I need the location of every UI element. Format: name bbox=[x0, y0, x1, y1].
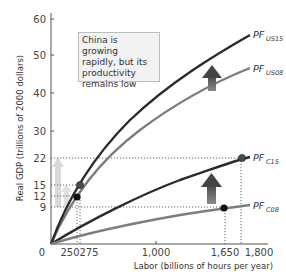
svg-text:PF: PF bbox=[253, 200, 265, 211]
x-tick-1000: 1,000 bbox=[142, 247, 171, 258]
y-tick-40: 40 bbox=[33, 88, 46, 99]
svg-text:US08: US08 bbox=[266, 69, 283, 77]
y-tick-30: 30 bbox=[33, 126, 46, 137]
annotation-line: rapidly, but its bbox=[82, 57, 156, 68]
annotation-box: China is growing rapidly, but its produc… bbox=[78, 32, 160, 82]
annotation-line: productivity bbox=[82, 68, 156, 79]
point-c08 bbox=[220, 204, 227, 211]
china-shift-arrow bbox=[201, 173, 222, 204]
label-pf-c08: PF C08 bbox=[253, 200, 279, 214]
svg-text:C15: C15 bbox=[266, 158, 279, 166]
svg-text:C08: C08 bbox=[266, 206, 279, 214]
pf-c08-curve bbox=[51, 205, 250, 244]
svg-text:PF: PF bbox=[253, 152, 265, 163]
x-tick-250: 250 bbox=[60, 247, 79, 258]
x-tick-1800: 1,800 bbox=[245, 247, 274, 258]
pf-c15-curve bbox=[51, 157, 250, 244]
y-tick-12: 12 bbox=[33, 191, 46, 202]
label-pf-us15: PF US15 bbox=[253, 29, 283, 43]
label-pf-c15: PF C15 bbox=[253, 152, 279, 166]
point-c15 bbox=[238, 154, 245, 161]
x-axis-title: Labor (billions of hours per year) bbox=[134, 261, 273, 271]
x-tick-1650: 1,650 bbox=[211, 247, 240, 258]
y-axis-title: Real GDP (trillions of 2000 dollars) bbox=[15, 55, 25, 201]
x-tick-275: 275 bbox=[79, 247, 98, 258]
x-tick-0: 0 bbox=[39, 247, 45, 258]
svg-text:US15: US15 bbox=[266, 35, 283, 43]
china-gdp-rise-arrow bbox=[52, 157, 64, 207]
label-pf-us08: PF US08 bbox=[253, 63, 283, 77]
pf-us08-curve bbox=[51, 68, 250, 244]
svg-text:PF: PF bbox=[253, 29, 265, 40]
y-tick-50: 50 bbox=[33, 50, 46, 61]
point-us08 bbox=[73, 193, 80, 200]
annotation-line: remains low bbox=[82, 79, 156, 90]
y-tick-60: 60 bbox=[33, 14, 46, 25]
annotation-line: China is growing bbox=[82, 35, 156, 57]
point-us15 bbox=[76, 181, 83, 188]
y-tick-9: 9 bbox=[40, 202, 46, 213]
us-shift-arrow bbox=[202, 65, 222, 91]
y-tick-22: 22 bbox=[33, 153, 46, 164]
y-tick-15: 15 bbox=[33, 180, 46, 191]
svg-text:PF: PF bbox=[253, 63, 265, 74]
us-gdp-rise-arrow bbox=[61, 184, 72, 207]
